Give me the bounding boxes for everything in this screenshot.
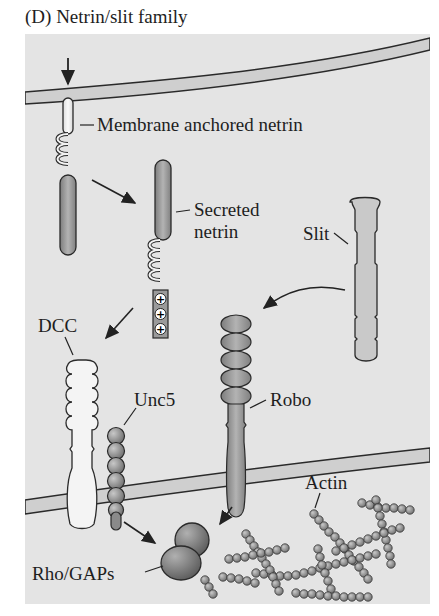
figure-title: (D) Netrin/slit family <box>25 6 188 28</box>
plus-icon: + <box>156 293 165 306</box>
label-dcc: DCC <box>38 315 77 336</box>
label-membrane-anchored-netrin: Membrane anchored netrin <box>97 114 303 135</box>
diagram-panel: Membrane anchored netrin + + + Secreted … <box>25 34 430 604</box>
slit-protein <box>350 198 380 362</box>
label-unc5: Unc5 <box>134 389 175 410</box>
plus-icon: + <box>156 308 165 321</box>
label-robo: Robo <box>270 389 311 410</box>
unc5-receptor <box>108 428 125 531</box>
label-slit: Slit <box>303 223 330 244</box>
positive-charge-icons: + + + <box>155 293 166 336</box>
label-secreted-netrin-line2: netrin <box>194 221 239 242</box>
plus-icon: + <box>156 323 165 336</box>
label-actin: Actin <box>305 472 348 493</box>
label-rho-gaps: Rho/GAPs <box>32 563 114 584</box>
label-secreted-netrin-line1: Secreted <box>194 199 260 220</box>
